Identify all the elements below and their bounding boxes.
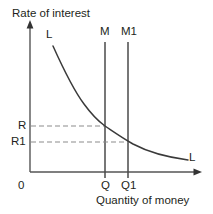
quantity-label-q: Q xyxy=(101,180,110,192)
supply-label-m: M xyxy=(100,26,110,38)
curve-label-top: L xyxy=(46,29,52,41)
origin-label: 0 xyxy=(18,180,24,192)
y-axis xyxy=(27,20,34,172)
rate-label-r1: R1 xyxy=(11,136,26,148)
x-axis-title: Quantity of money xyxy=(96,195,189,207)
rate-label-r: R xyxy=(18,120,26,132)
curve-label-bottom: L xyxy=(189,152,195,164)
liquidity-preference-chart: Rate of interest Quantity of money L L M… xyxy=(0,0,213,214)
x-axis-arrowhead xyxy=(194,169,203,176)
liquidity-preference-curve xyxy=(53,46,188,160)
x-axis xyxy=(30,169,202,176)
supply-label-m1: M1 xyxy=(121,26,137,38)
y-axis-arrowhead xyxy=(27,20,34,29)
y-axis-title: Rate of interest xyxy=(12,8,90,20)
quantity-label-q1: Q1 xyxy=(121,180,136,192)
